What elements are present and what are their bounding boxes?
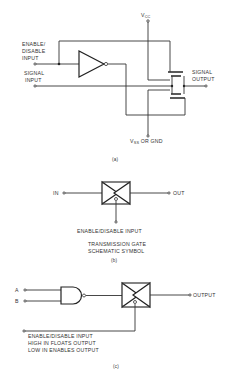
- caption-a: (a): [112, 157, 118, 162]
- figure-a: VCC ENABLE/ DISABLE INPUT SIGNAL INPUT: [22, 12, 215, 162]
- in-label: IN: [53, 190, 59, 196]
- vss-terminal: [147, 135, 149, 137]
- enable-label-3: INPUT: [22, 55, 39, 61]
- tg-bubble: [115, 198, 118, 201]
- signal-output-terminal: [205, 85, 207, 87]
- out-terminal: [168, 192, 170, 194]
- nand-gate-symbol: [61, 287, 82, 304]
- enable-terminal-b: [115, 221, 117, 223]
- out-label: OUT: [173, 190, 185, 196]
- enable-label-c-2: HIGH IN FLOATS OUTPUT: [28, 340, 96, 346]
- enable-terminal-c: [23, 330, 25, 332]
- tg-title-2: SCHEMATIC SYMBOL: [88, 248, 144, 254]
- enable-label-b: ENABLE/DISABLE INPUT: [77, 228, 142, 234]
- enable-label-c-3: LOW IN ENABLES OUTPUT: [28, 347, 99, 353]
- transmission-gate-symbol: [102, 182, 130, 204]
- input-b-terminal: [24, 300, 26, 302]
- input-a-label: A: [15, 287, 19, 293]
- nand-bubble: [83, 294, 86, 297]
- transmission-gate-c: [122, 283, 150, 307]
- vss-label: VSS OR GND: [130, 138, 163, 145]
- figure-b: IN OUT ENABLE/DISABLE INPUT TRANSMISSION…: [53, 182, 185, 263]
- caption-b: (b): [111, 258, 117, 263]
- output-terminal: [189, 294, 191, 296]
- tg-title-1: TRANSMISSION GATE: [88, 241, 146, 247]
- signal-input-label-1: SIGNAL: [24, 70, 44, 76]
- vcc-label: VCC: [141, 12, 151, 19]
- inverter-bubble: [104, 62, 107, 65]
- enable-label-1: ENABLE/: [22, 41, 46, 47]
- diagram-canvas: VCC ENABLE/ DISABLE INPUT SIGNAL INPUT: [0, 0, 230, 381]
- output-label: OUTPUT: [193, 292, 216, 298]
- cmos-switch: [168, 72, 185, 98]
- input-a-terminal: [24, 289, 26, 291]
- switch-in-dot: [171, 85, 173, 87]
- junction-dot: [58, 63, 61, 66]
- figure-c: A B OUTPUT ENABLE/DISABLE INPUT HIGH IN …: [15, 283, 216, 369]
- enable-label-c-1: ENABLE/DISABLE INPUT: [28, 333, 93, 339]
- tgc-bubble: [134, 301, 137, 304]
- signal-output-label-2: OUTPUT: [192, 76, 215, 82]
- signal-input-label-2: INPUT: [25, 77, 42, 83]
- signal-input-terminal: [34, 85, 36, 87]
- enable-label-2: DISABLE: [22, 48, 46, 54]
- in-terminal: [63, 192, 65, 194]
- input-b-label: B: [15, 298, 19, 304]
- inverter-symbol: [79, 51, 104, 77]
- signal-output-label-1: SIGNAL: [192, 69, 212, 75]
- vcc-terminal: [147, 20, 149, 22]
- enable-input-terminal: [34, 63, 36, 65]
- caption-c: (c): [113, 364, 119, 369]
